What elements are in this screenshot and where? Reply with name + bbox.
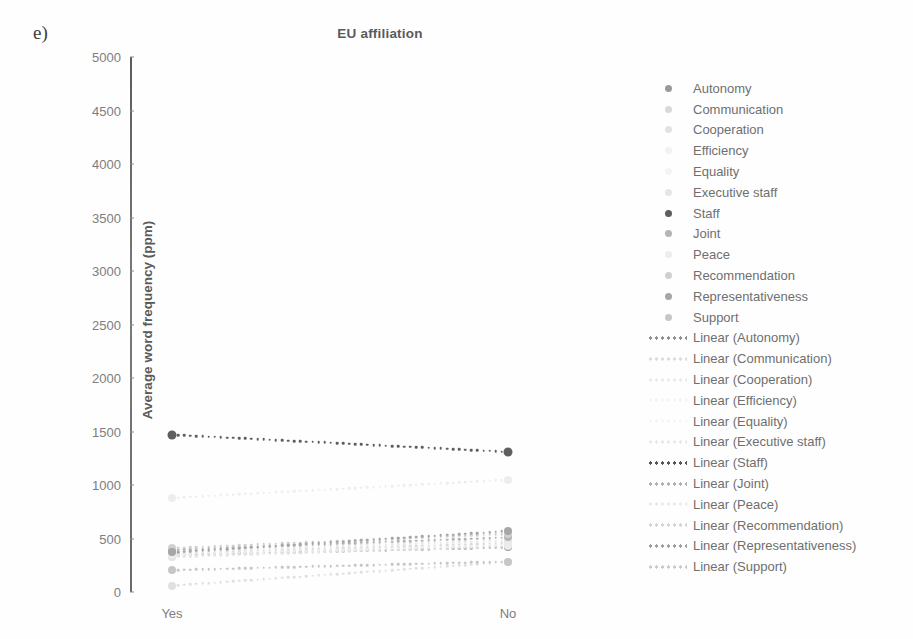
- series-trend-dot: [421, 562, 424, 565]
- series-endpoint-marker: [504, 541, 512, 549]
- series-trend-dot: [476, 480, 479, 483]
- legend-item[interactable]: Peace: [648, 244, 910, 265]
- series-trend-dot: [336, 541, 339, 544]
- legend-item[interactable]: Autonomy: [648, 78, 910, 99]
- legend-key-marker: [648, 207, 688, 219]
- y-tick-mark: [130, 592, 134, 593]
- series-endpoint-marker: [168, 582, 176, 590]
- series-trend-dot: [415, 567, 418, 570]
- legend-marker-dot-icon: [665, 85, 672, 92]
- legend-item-label: Staff: [693, 207, 720, 220]
- legend-item[interactable]: Linear (Efficiency): [648, 390, 910, 411]
- legend-item[interactable]: Staff: [648, 203, 910, 224]
- series-trend-dot: [385, 541, 388, 544]
- series-trend-dot: [256, 551, 259, 554]
- series-trend-dot: [409, 484, 412, 487]
- series-trend-dot: [232, 552, 235, 555]
- series-trend-dot: [440, 539, 443, 542]
- y-tick-mark: [130, 538, 134, 539]
- series-trend-dot: [476, 540, 479, 543]
- legend-item[interactable]: Linear (Representativeness): [648, 536, 910, 557]
- series-trend-dot: [354, 443, 357, 446]
- legend-item[interactable]: Linear (Communication): [648, 348, 910, 369]
- series-trend-dot: [232, 493, 235, 496]
- series-trend-dot: [366, 564, 369, 567]
- y-tick-label: 3000: [92, 264, 121, 279]
- series-trend-dot: [213, 548, 216, 551]
- legend-item[interactable]: Representativeness: [648, 286, 910, 307]
- series-trend-dot: [458, 561, 461, 564]
- series-endpoint-marker: [504, 527, 512, 535]
- series-trend-dot: [378, 444, 381, 447]
- legend-item[interactable]: Executive staff: [648, 182, 910, 203]
- legend-trendline-dotted-icon: [649, 461, 687, 465]
- series-trend-dot: [446, 538, 449, 541]
- series-trend-dot: [299, 546, 302, 549]
- legend-item[interactable]: Linear (Executive staff): [648, 432, 910, 453]
- series-trend-dot: [464, 564, 467, 567]
- legend-trendline-dotted-icon: [649, 357, 687, 361]
- series-trend-dot: [372, 547, 375, 550]
- x-tick-label: No: [500, 606, 517, 621]
- series-trend-dot: [427, 566, 430, 569]
- series-trend-dot: [403, 543, 406, 546]
- series-trend-dot: [207, 549, 210, 552]
- legend-item[interactable]: Recommendation: [648, 265, 910, 286]
- series-trend-dot: [189, 550, 192, 553]
- series-trend-dot: [311, 441, 314, 444]
- series-trend-dot: [305, 575, 308, 578]
- series-trend-dot: [433, 562, 436, 565]
- legend-item-label: Linear (Executive staff): [693, 435, 826, 448]
- series-trend-dot: [342, 548, 345, 551]
- legend-key-trendline: [648, 394, 688, 406]
- series-trend-dot: [293, 490, 296, 493]
- series-trend-dot: [256, 546, 259, 549]
- legend-item[interactable]: Linear (Recommendation): [648, 515, 910, 536]
- series-trend-dot: [391, 569, 394, 572]
- series-trend-dot: [494, 537, 497, 540]
- legend-item-label: Linear (Representativeness): [693, 539, 856, 552]
- series-trend-dot: [220, 568, 223, 571]
- legend-item[interactable]: Efficiency: [648, 140, 910, 161]
- legend-item-label: Cooperation: [693, 123, 764, 136]
- legend-item[interactable]: Support: [648, 307, 910, 328]
- series-trend-dot: [281, 491, 284, 494]
- series-trend-dot: [250, 437, 253, 440]
- series-trend-dot: [275, 439, 278, 442]
- series-trend-dot: [452, 448, 455, 451]
- legend-marker-dot-icon: [665, 168, 672, 175]
- legend-item[interactable]: Linear (Cooperation): [648, 369, 910, 390]
- series-trend-dot: [421, 483, 424, 486]
- legend-item[interactable]: Cooperation: [648, 120, 910, 141]
- legend-item[interactable]: Communication: [648, 99, 910, 120]
- legend-item[interactable]: Linear (Support): [648, 556, 910, 577]
- legend-item[interactable]: Linear (Equality): [648, 411, 910, 432]
- legend-item[interactable]: Linear (Autonomy): [648, 328, 910, 349]
- series-trend-dot: [177, 553, 180, 556]
- legend-item[interactable]: Linear (Joint): [648, 473, 910, 494]
- series-trend-dot: [244, 493, 247, 496]
- legend-item[interactable]: Equality: [648, 161, 910, 182]
- series-trend-dot: [305, 546, 308, 549]
- legend-item[interactable]: Linear (Peace): [648, 494, 910, 515]
- series-trend-dot: [488, 479, 491, 482]
- series-trend-dot: [256, 567, 259, 570]
- series-trend-dot: [464, 448, 467, 451]
- series-trend-dot: [232, 580, 235, 583]
- legend-item[interactable]: Joint: [648, 224, 910, 245]
- y-tick-mark: [130, 57, 134, 58]
- series-trend-dot: [348, 487, 351, 490]
- y-tick-mark: [130, 110, 134, 111]
- series-trend-dot: [440, 447, 443, 450]
- series-trend-dot: [464, 561, 467, 564]
- series-trend-dot: [201, 549, 204, 552]
- legend-key-trendline: [648, 353, 688, 365]
- series-trend-dot: [458, 545, 461, 548]
- series-trend-dot: [220, 494, 223, 497]
- series-trend-dot: [366, 486, 369, 489]
- series-trend-dot: [244, 437, 247, 440]
- legend-item[interactable]: Linear (Staff): [648, 452, 910, 473]
- series-trend-dot: [177, 569, 180, 572]
- series-trend-dot: [470, 480, 473, 483]
- series-trend-dot: [317, 545, 320, 548]
